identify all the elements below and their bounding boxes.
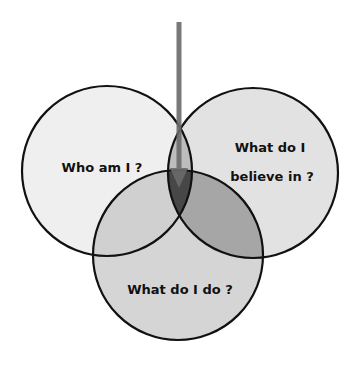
label-what-do-i-believe-line2: believe in ? <box>230 169 313 184</box>
label-who-am-i: Who am I ? <box>62 160 143 175</box>
label-what-do-i-believe-line1: What do I <box>235 140 306 155</box>
label-what-do-i-do: What do I do ? <box>127 282 233 297</box>
venn-diagram: Who am I ? What do I believe in ? What d… <box>0 0 357 366</box>
